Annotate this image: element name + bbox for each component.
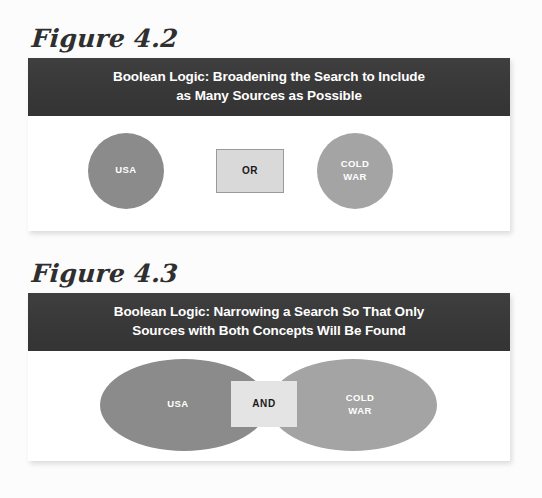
figure-header-line-1: Boolean Logic: Broadening the Search to … <box>54 67 484 86</box>
figure-block-4-2: Figure 4.2 Boolean Logic: Broadening the… <box>28 26 510 231</box>
venn-ellipse-cold-war-label-line-2: WAR <box>348 405 371 416</box>
venn-circle-cold-war-label-line-2: WAR <box>343 171 366 182</box>
figure-header-line-1: Boolean Logic: Narrowing a Search So Tha… <box>54 302 484 321</box>
figure-header-line-2: Sources with Both Concepts Will Be Found <box>54 321 484 340</box>
page-canvas: Figure 4.2 Boolean Logic: Broadening the… <box>0 0 542 498</box>
venn-ellipse-cold-war-label: COLD WAR <box>346 392 375 417</box>
operator-box-or-label: OR <box>242 165 258 176</box>
operator-box-or: OR <box>216 149 284 193</box>
venn-diagram-and: USA COLD WAR AND <box>28 351 510 461</box>
venn-circle-cold-war-label-line-1: COLD <box>341 158 370 169</box>
figure-block-4-3: Figure 4.3 Boolean Logic: Narrowing a Se… <box>28 261 510 461</box>
venn-circle-cold-war-label: COLD WAR <box>341 158 370 183</box>
figure-card: Boolean Logic: Broadening the Search to … <box>28 58 510 230</box>
figure-label: Figure 4.2 <box>31 26 512 52</box>
venn-circle-usa-label: USA <box>115 164 136 176</box>
operator-box-and-label: AND <box>252 398 275 409</box>
figure-header-title: Boolean Logic: Narrowing a Search So Tha… <box>28 293 510 350</box>
figure-label: Figure 4.3 <box>31 261 512 287</box>
figure-header-title: Boolean Logic: Broadening the Search to … <box>28 58 510 115</box>
venn-circle-usa: USA <box>88 133 164 209</box>
figure-card: Boolean Logic: Narrowing a Search So Tha… <box>28 293 510 460</box>
operator-box-and: AND <box>231 381 297 427</box>
figure-header-line-2: as Many Sources as Possible <box>54 86 484 105</box>
venn-ellipse-usa-label: USA <box>167 398 188 410</box>
venn-diagram-or: USA OR COLD WAR <box>28 116 510 231</box>
venn-circle-cold-war: COLD WAR <box>317 133 393 209</box>
venn-ellipse-cold-war-label-line-1: COLD <box>346 392 375 403</box>
